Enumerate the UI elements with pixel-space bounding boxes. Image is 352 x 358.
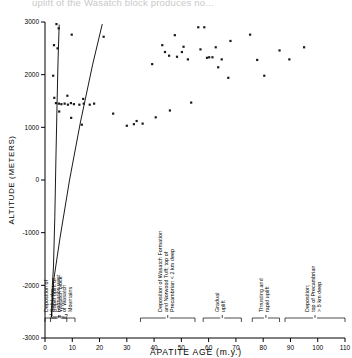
y-tick-label: -1000 <box>22 229 39 236</box>
data-point <box>169 109 171 111</box>
annotation-text: Mountains <box>67 286 73 312</box>
data-point <box>112 113 114 115</box>
uplift-history-curve <box>52 24 103 317</box>
y-axis-ticks: 3000200010000-1000-2000-3000 <box>22 18 45 341</box>
data-point <box>55 102 57 104</box>
data-point <box>93 103 95 105</box>
data-point <box>73 103 75 105</box>
annotation-group: Rapid uplift ofWasatch blockDeposition o… <box>43 231 345 322</box>
annotation-bracket <box>252 318 279 322</box>
annotation-bracket <box>285 318 345 322</box>
data-point <box>206 57 208 59</box>
data-point <box>56 47 58 49</box>
data-point <box>81 124 83 126</box>
y-tick-label: 2000 <box>25 71 40 78</box>
plot-axes <box>45 22 345 338</box>
data-point <box>155 116 157 118</box>
annotation-text: rapid uplift <box>264 286 270 312</box>
apatite-age-altitude-scatter-plot: 3000200010000-1000-2000-3000 01020304050… <box>0 0 352 358</box>
data-point <box>58 110 60 112</box>
data-point <box>161 44 163 46</box>
chart-screenshot: uplift of the Wasatch block produces no.… <box>0 0 352 358</box>
annotation-bracket <box>140 318 195 322</box>
data-point <box>71 34 73 36</box>
data-point <box>181 51 183 53</box>
x-tick-label: 90 <box>287 344 295 351</box>
data-point <box>78 104 80 106</box>
data-point <box>164 51 166 53</box>
question-mark-marker: ?——? <box>49 313 68 319</box>
data-point <box>89 104 91 106</box>
data-point <box>70 102 72 104</box>
data-point <box>55 23 57 25</box>
data-point <box>176 56 178 58</box>
x-tick-label: 20 <box>96 344 104 351</box>
data-point <box>229 40 231 42</box>
data-point <box>142 123 144 125</box>
data-point <box>136 120 138 122</box>
data-point <box>190 101 192 103</box>
x-tick-label: 10 <box>69 344 77 351</box>
data-point <box>53 44 55 46</box>
data-point <box>187 58 189 60</box>
data-point <box>256 59 258 61</box>
data-point <box>199 48 201 50</box>
annotation-text: > 5 km deep <box>316 282 322 312</box>
x-tick-label: 80 <box>260 344 268 351</box>
data-point <box>174 34 176 36</box>
data-point <box>263 75 265 77</box>
data-point <box>83 103 85 105</box>
x-tick-label: 0 <box>43 344 47 351</box>
data-point <box>288 58 290 60</box>
y-tick-label: -3000 <box>22 334 39 341</box>
annotation-text: uplift <box>220 300 226 312</box>
data-point <box>133 123 135 125</box>
data-point <box>211 56 213 58</box>
data-point <box>103 36 105 38</box>
data-point <box>217 66 219 68</box>
data-point <box>52 75 54 77</box>
annotation-text: Precambrian < 2 km deep <box>169 249 175 312</box>
x-tick-label: 110 <box>340 344 351 351</box>
y-tick-label: 0 <box>35 176 39 183</box>
y-tick-label: 1000 <box>25 124 40 131</box>
y-tick-label: -2000 <box>22 282 39 289</box>
data-point <box>197 26 199 28</box>
data-point <box>215 46 217 48</box>
data-point <box>227 77 229 79</box>
x-tick-label: 100 <box>312 344 323 351</box>
data-point <box>203 26 205 28</box>
x-axis-label: APATITE AGE (m.y.) <box>150 347 242 357</box>
data-point <box>58 103 60 105</box>
data-point <box>60 103 62 105</box>
data-point <box>82 98 84 100</box>
y-tick-label: 3000 <box>25 18 40 25</box>
y-axis-label: ALTITUDE (METERS) <box>7 135 16 224</box>
data-point <box>151 63 153 65</box>
annotation-bracket <box>203 318 241 322</box>
data-point <box>66 95 68 97</box>
data-point <box>58 27 60 29</box>
data-point <box>64 103 66 105</box>
x-tick-label: 30 <box>123 344 131 351</box>
data-point <box>221 58 223 60</box>
data-point <box>168 55 170 57</box>
data-point <box>249 34 251 36</box>
data-point <box>182 46 184 48</box>
data-point <box>278 49 280 51</box>
data-point <box>53 97 55 99</box>
data-point <box>303 46 305 48</box>
data-point <box>70 117 72 119</box>
data-point <box>208 56 210 58</box>
data-point <box>67 104 69 106</box>
data-point <box>126 125 128 127</box>
